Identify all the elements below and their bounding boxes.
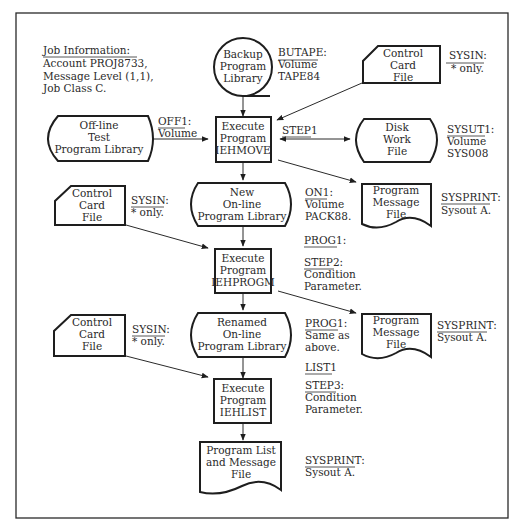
label-text: Control xyxy=(72,316,113,328)
annotation-sysut1: SYSUT1: Volume SYS008 xyxy=(446,123,494,159)
label-text: Sysout A. xyxy=(441,204,491,216)
node-control-card-3: Control Card File xyxy=(54,315,125,356)
annotation-butape: BUTAPE: Volume TAPE84 xyxy=(277,46,327,82)
annotation-list1: LIST1 xyxy=(305,361,337,374)
job-info-line: Account PROJ8733, xyxy=(42,57,148,69)
label-text: STEP3: xyxy=(305,379,344,391)
annotation-step1: STEP1 xyxy=(282,124,318,137)
node-message-file-2: Program Message File xyxy=(362,314,431,358)
edge-step1-to-msg1 xyxy=(278,160,356,182)
job-flowchart: Job Information: Account PROJ8733, Messa… xyxy=(0,0,525,526)
label-text: Work xyxy=(383,133,411,145)
label-text: Sysout A. xyxy=(305,466,355,478)
label-text: Program xyxy=(220,60,266,72)
label-text: Library xyxy=(223,72,262,84)
label-text: Condition xyxy=(304,268,356,280)
annotation-sysin-1: SYSIN: * only. xyxy=(446,49,487,74)
node-list-message-file: Program List and Message File xyxy=(200,442,281,494)
label-text: File xyxy=(393,71,413,83)
annotation-on1: ON1: Volume PACK88. xyxy=(304,186,351,222)
node-control-card-2: Control Card File xyxy=(55,186,125,225)
label-text: File xyxy=(231,468,251,480)
label-text: SYSUT1: xyxy=(447,123,494,135)
label-text: SYSIN: xyxy=(131,194,169,206)
node-step2-process: Execute Program IEHPROGM xyxy=(211,249,275,293)
job-info-line: Job Class C. xyxy=(42,82,106,94)
label-text: IEHPROGM xyxy=(211,276,275,288)
label-text: Card xyxy=(79,328,105,340)
label-text: Message xyxy=(373,196,420,208)
edge-card2-to-step2 xyxy=(126,225,208,248)
label-text: Condition xyxy=(305,391,357,403)
node-step3-process: Execute Program IEHLIST xyxy=(214,379,271,423)
annotation-sysin-3: SYSIN: * only. xyxy=(132,323,170,347)
node-offline-library: Off-line Test Program Library xyxy=(48,116,153,161)
label-text: Disk xyxy=(385,121,409,133)
label-text: Program xyxy=(220,264,266,276)
label-text: LIST1 xyxy=(305,361,337,373)
label-text: PACK88. xyxy=(305,210,351,222)
label-text: Renamed xyxy=(217,316,267,328)
label-text: * only. xyxy=(131,206,164,218)
label-text: SYSIN: xyxy=(132,323,170,335)
label-text: SYSPRINT: xyxy=(437,319,497,331)
label-text: File xyxy=(386,338,406,350)
node-disk-work-file: Disk Work File xyxy=(356,119,437,162)
annotation-sysin-2: SYSIN: * only. xyxy=(131,194,169,218)
label-text: ON1: xyxy=(305,186,333,198)
label-text: Card xyxy=(390,59,416,71)
annotation-step3: STEP3: Condition Parameter. xyxy=(305,379,363,415)
label-text: * only. xyxy=(132,335,165,347)
label-text: Backup xyxy=(223,48,263,60)
node-message-file-1: Program Message File xyxy=(362,184,431,228)
label-text: On-line xyxy=(223,328,262,340)
job-info-line: Message Level (1,1), xyxy=(43,70,154,82)
label-text: Execute xyxy=(222,120,265,132)
label-text: File xyxy=(386,208,406,220)
label-text: Program xyxy=(373,184,419,196)
label-text: BUTAPE: xyxy=(278,46,327,58)
label-text: Message xyxy=(373,326,420,338)
label-text: STEP2: xyxy=(304,256,343,268)
label-text: File xyxy=(387,145,407,157)
label-text: Program xyxy=(373,314,419,326)
annotation-prog1-a: PROG1: xyxy=(304,234,346,247)
node-new-online-library: New On-line Program Library xyxy=(191,183,291,226)
annotation-step2: STEP2: Condition Parameter. xyxy=(304,256,362,292)
label-text: Parameter. xyxy=(304,280,362,292)
label-text: SYSIN: xyxy=(449,49,487,61)
label-text: Parameter. xyxy=(305,403,363,415)
label-text: Program List xyxy=(206,444,276,456)
label-text: File xyxy=(82,211,102,223)
label-text: Card xyxy=(79,199,105,211)
label-text: Program Library xyxy=(198,340,287,352)
label-text: IEHMOVE xyxy=(215,144,270,156)
job-info-heading: Job Information: xyxy=(42,44,130,56)
annotation-sysprint-1: SYSPRINT: Sysout A. xyxy=(441,191,501,216)
label-text: Program Library xyxy=(198,210,287,222)
label-text: IEHLIST xyxy=(220,406,266,418)
label-text: New xyxy=(230,186,254,198)
label-text: SYSPRINT: xyxy=(305,454,365,466)
node-control-card-1: Control Card File xyxy=(363,46,440,83)
edge-card3-to-step3 xyxy=(126,356,208,377)
label-text: Program Library xyxy=(55,143,144,155)
label-text: Control xyxy=(72,187,113,199)
label-text: OFF1: xyxy=(158,115,191,127)
label-text: STEP1 xyxy=(282,124,318,136)
node-step1-process: Execute Program IEHMOVE xyxy=(215,117,271,162)
label-text: Volume xyxy=(446,135,486,147)
edge-card1-to-step1 xyxy=(277,83,362,120)
node-backup-library: Backup Program Library xyxy=(214,38,272,96)
node-renamed-library: Renamed On-line Program Library xyxy=(191,313,291,357)
label-text: On-line xyxy=(223,198,262,210)
label-text: * only. xyxy=(451,62,484,74)
label-text: Control xyxy=(383,47,424,59)
label-text: Test xyxy=(88,131,111,143)
label-text: Execute xyxy=(222,382,265,394)
label-text: PROG1: xyxy=(305,317,347,329)
label-text: SYSPRINT: xyxy=(441,191,501,203)
label-text: PROG1: xyxy=(304,234,346,246)
label-text: Sysout A. xyxy=(437,331,487,343)
label-text: Program xyxy=(220,394,266,406)
